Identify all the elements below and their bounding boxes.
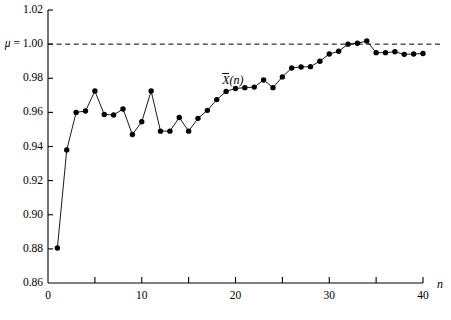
mu-value-text: = 1.00	[11, 37, 43, 49]
line-chart-plot	[0, 0, 451, 320]
series-label-xbar: X(n)	[222, 74, 243, 86]
y-axis-tick-label: 0.98	[0, 72, 43, 84]
chart-axes	[48, 10, 423, 283]
y-axis-tick-label: 0.94	[0, 141, 43, 153]
series-label-arg: (n)	[230, 73, 244, 87]
mu-reference-label: μ = 1.00	[0, 38, 43, 50]
x-axis-name: n	[437, 278, 443, 290]
x-axis-ticks	[95, 277, 423, 283]
y-axis-tick-label: 1.02	[0, 4, 43, 16]
x-axis-tick-label: 0	[33, 290, 63, 302]
x-axis-tick-label: 20	[221, 290, 251, 302]
data-series-xbar	[55, 38, 426, 250]
x-axis-tick-label: 40	[408, 290, 438, 302]
x-axis-tick-label: 10	[127, 290, 157, 302]
y-axis-tick-label: 0.90	[0, 209, 43, 221]
y-axis-tick-label: 0.86	[0, 277, 43, 289]
x-axis-tick-label: 30	[314, 290, 344, 302]
xbar-glyph: X	[222, 74, 229, 86]
y-axis-tick-label: 0.92	[0, 175, 43, 187]
chart-figure: 0.860.880.900.920.940.960.981.02 0102030…	[0, 0, 451, 320]
y-axis-tick-label: 0.88	[0, 243, 43, 255]
y-axis-ticks	[48, 10, 53, 249]
y-axis-tick-label: 0.96	[0, 106, 43, 118]
